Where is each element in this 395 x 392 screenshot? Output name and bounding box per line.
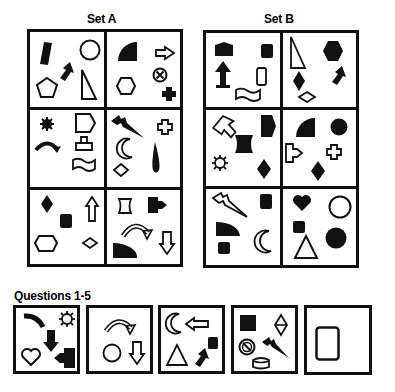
rounded-square-icon [261, 44, 273, 58]
rounded-square-icon [60, 214, 72, 228]
question-2[interactable] [86, 305, 153, 374]
quarter-circle-icon [216, 222, 240, 236]
circle-icon [102, 343, 122, 363]
lightning-icon [212, 192, 248, 218]
curved-arrow-icon [104, 316, 136, 334]
hexagon-icon [116, 77, 136, 95]
arrow-tab-icon [148, 197, 168, 213]
parallelogram-icon [39, 42, 53, 66]
circle-icon [325, 227, 347, 249]
set-b-cell-2 [283, 33, 356, 107]
circle-icon [79, 39, 101, 61]
diamond-icon [82, 237, 98, 249]
set-b-cell-4 [283, 110, 356, 186]
circle-icon [330, 118, 348, 136]
arrow-tab-left-icon [54, 348, 76, 368]
question-3[interactable] [158, 305, 225, 374]
crescent-moon-icon [167, 313, 183, 335]
question-1[interactable] [13, 305, 80, 374]
diamond-icon [311, 161, 325, 181]
set-a-cell-2 [107, 32, 180, 107]
set-b-cell-5 [206, 189, 280, 265]
rounded-square-icon [260, 194, 272, 209]
wave-flag-icon [72, 157, 96, 173]
heart-icon [292, 194, 312, 212]
heart-icon [21, 348, 41, 366]
crescent-moon-icon [255, 230, 273, 254]
set-b-cell-6 [283, 189, 356, 265]
house-icon [214, 42, 234, 56]
arrow-tab-icon [285, 143, 303, 163]
hexagon-wide-icon [34, 235, 58, 252]
wave-flag-icon [235, 87, 261, 103]
circled-slash-icon [238, 338, 256, 356]
arrow-left-icon [185, 317, 209, 331]
cylinder-icon [252, 356, 270, 370]
rounded-rectangle-icon [315, 326, 341, 362]
crescent-moon-icon [116, 138, 134, 160]
triangle-icon [294, 235, 318, 259]
arrow-down-icon [129, 341, 145, 365]
quarter-circle-icon [296, 118, 316, 138]
curved-arrow-icon [121, 220, 153, 240]
set-a-cell-1 [30, 32, 104, 107]
set-b-cell-1 [206, 33, 280, 107]
question-5[interactable] [304, 305, 372, 375]
diamond-icon [293, 71, 305, 91]
set-a-cell-6 [107, 190, 180, 264]
starburst-icon [212, 155, 228, 171]
diamond-icon [41, 195, 53, 213]
cross-icon [326, 144, 342, 160]
upload-tray-icon [75, 135, 93, 151]
teardrop-icon [151, 142, 161, 174]
right-triangle-icon [81, 69, 97, 101]
pentagon-icon [36, 77, 58, 98]
hexagon-icon [323, 41, 343, 61]
diamond-icon [298, 91, 316, 103]
set-a-cell-3 [30, 110, 104, 187]
scroll-icon [117, 197, 133, 215]
quarter-circle-icon [118, 42, 138, 62]
arrow-up-right-icon [57, 62, 75, 82]
rounded-square-icon [293, 221, 305, 233]
diamond-icon [113, 163, 129, 177]
arrow-up-right-icon [329, 66, 347, 86]
triangle-icon [166, 344, 188, 366]
starburst-icon [40, 117, 54, 131]
set-a-cell-4 [107, 110, 180, 187]
arrow-up-right-icon [192, 348, 210, 368]
set-a-cell-5 [30, 190, 104, 264]
arrow-up-icon [85, 196, 99, 222]
set-b-cell-3 [206, 110, 280, 186]
curved-bar-icon [23, 313, 45, 329]
rounded-rectangle-icon [256, 67, 268, 87]
circled-x-icon [152, 67, 168, 83]
arrow-right-icon [155, 46, 175, 60]
set-b-title: Set B [264, 12, 294, 26]
square-icon [240, 315, 256, 331]
set-a-grid [27, 29, 183, 267]
quarter-circle-icon [113, 243, 137, 258]
pentagon-arrow-icon [261, 115, 277, 137]
scroll-icon [233, 133, 255, 155]
lightning-icon [111, 115, 145, 139]
questions-title: Questions 1-5 [14, 289, 91, 303]
cross-icon [162, 87, 176, 101]
arrow-up-icon [214, 61, 232, 89]
split-diamond-icon [274, 314, 288, 336]
pentagon-arrow-icon [75, 113, 97, 134]
starburst-icon [59, 311, 75, 327]
question-4[interactable] [231, 305, 298, 374]
set-b-grid [203, 30, 359, 268]
circle-icon [328, 195, 352, 219]
set-a-title: Set A [87, 12, 116, 26]
curved-arrow-icon [35, 137, 61, 153]
right-triangle-icon [290, 36, 306, 70]
cross-icon [157, 119, 173, 135]
diamond-icon [257, 159, 271, 179]
rounded-square-icon [218, 242, 230, 254]
arrow-down-icon [159, 231, 175, 255]
